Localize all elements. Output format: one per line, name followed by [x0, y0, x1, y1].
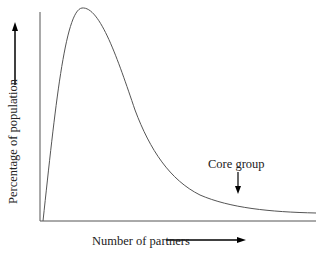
y-axis-label: Percentage of population	[6, 77, 21, 207]
x-arrow-head	[237, 237, 246, 243]
chart-canvas	[0, 0, 324, 255]
core-group-label: Core group	[208, 157, 265, 172]
core-arrow-head	[235, 186, 241, 194]
y-arrow-head	[12, 22, 18, 31]
distribution-curve	[43, 8, 316, 221]
x-axis-label: Number of partners	[92, 234, 190, 249]
